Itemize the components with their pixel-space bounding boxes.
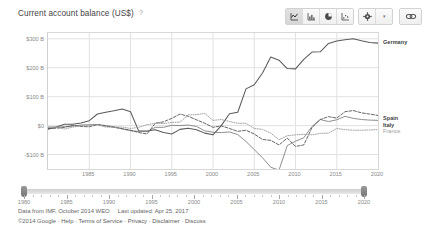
range-tick (271, 195, 272, 197)
series-label-france[interactable]: France (383, 128, 400, 134)
copyright-line: ©2014 Google - Help - Terms of Service -… (18, 218, 418, 224)
settings-toolbar: ▾ (358, 8, 393, 25)
range-tick (313, 195, 314, 197)
footer-link-terms-of-service[interactable]: Terms of Service (79, 218, 123, 224)
chart-plot-area[interactable] (47, 32, 379, 170)
range-tick (67, 195, 68, 199)
google-public-data-chart: Current account balance (US$) ? (0, 0, 430, 241)
chart-header: Current account balance (US$) ? (0, 0, 430, 28)
range-tick (364, 195, 365, 199)
page-title: Current account balance (US$) (18, 9, 134, 18)
range-tick-label: 1990 (103, 199, 115, 205)
y-axis-tick-label: $0 (38, 123, 44, 129)
range-tick (347, 195, 348, 197)
x-axis-tick-label: 1990 (123, 171, 135, 177)
chart-series-lines (48, 33, 378, 169)
range-tick (33, 195, 34, 197)
bar-chart-icon[interactable] (303, 9, 320, 24)
range-tick (305, 195, 306, 197)
chart-inline-legend: GermanySpainItalyFrance (381, 32, 430, 170)
range-tick (203, 195, 204, 197)
range-tick (262, 195, 263, 197)
range-tick (92, 195, 93, 197)
last-updated-text: Last updated: Apr 25, 2017 (118, 208, 189, 214)
y-axis: -$100 B$0$100 B$200 B$300 B (8, 32, 44, 170)
link-icon[interactable] (400, 9, 421, 24)
help-icon[interactable]: ? (139, 9, 143, 16)
range-tick (228, 195, 229, 197)
range-tick (58, 195, 59, 197)
range-tick (211, 195, 212, 197)
range-tick (135, 195, 136, 197)
chart-type-toolbar (285, 8, 354, 25)
footer-link-discuss[interactable]: Discuss (185, 218, 206, 224)
range-tick (143, 195, 144, 197)
range-slider-track[interactable] (24, 189, 364, 194)
range-tick (118, 195, 119, 197)
range-tick-label: 2020 (358, 199, 370, 205)
chevron-down-icon: ▾ (383, 14, 386, 19)
x-axis-tick-label: 2015 (330, 171, 342, 177)
x-axis-tick-label: 2005 (247, 171, 259, 177)
range-tick-label: 2010 (273, 199, 285, 205)
settings-dropdown-caret[interactable]: ▾ (376, 9, 392, 24)
series-label-germany[interactable]: Germany (383, 39, 407, 45)
range-tick (84, 195, 85, 197)
range-tick-label: 2015 (315, 199, 327, 205)
range-tick (169, 195, 170, 197)
range-tick (186, 195, 187, 197)
range-tick-label: 1980 (18, 199, 30, 205)
range-tick-label: 1985 (60, 199, 72, 205)
range-tick (279, 195, 280, 199)
range-tick (322, 195, 323, 199)
series-line-italy (48, 111, 378, 147)
range-tick-label: 2000 (188, 199, 200, 205)
x-axis-tick-label: 1995 (165, 171, 177, 177)
range-tick (339, 195, 340, 197)
range-tick (152, 195, 153, 199)
data-source-line: Data from IMF, October 2014 WEOLast upda… (18, 208, 418, 214)
y-axis-tick-label: -$100 B (24, 152, 44, 158)
range-tick (101, 195, 102, 197)
x-axis-tick-label: 2010 (288, 171, 300, 177)
pie-chart-icon[interactable] (320, 9, 337, 24)
time-range-slider[interactable]: 198019851990199520002005201020152020 (18, 186, 370, 206)
chart-footer: Data from IMF, October 2014 WEOLast upda… (18, 208, 418, 224)
range-tick (75, 195, 76, 197)
range-tick (220, 195, 221, 197)
scatter-chart-icon[interactable] (337, 9, 353, 24)
range-tick (24, 195, 25, 199)
range-tick (50, 195, 51, 197)
data-source-text: Data from IMF, October 2014 WEO (18, 208, 110, 214)
series-line-france (48, 113, 378, 139)
x-axis-tick-label: 2020 (371, 171, 383, 177)
range-tick (177, 195, 178, 197)
series-line-spain (48, 116, 378, 169)
copyright-text: ©2014 Google (18, 218, 56, 224)
footer-link-privacy[interactable]: Privacy (128, 218, 147, 224)
footer-link-help[interactable]: Help (61, 218, 73, 224)
x-axis-tick-label: 1985 (82, 171, 94, 177)
gear-icon[interactable] (359, 9, 376, 24)
y-axis-tick-label: $200 B (26, 65, 44, 71)
range-tick-label: 2005 (230, 199, 242, 205)
range-tick (330, 195, 331, 197)
range-tick (237, 195, 238, 199)
share-toolbar (399, 8, 422, 25)
range-tick (288, 195, 289, 197)
range-tick-label: 1995 (145, 199, 157, 205)
range-tick (296, 195, 297, 197)
y-axis-tick-label: $100 B (26, 94, 44, 100)
range-tick (194, 195, 195, 199)
range-tick (254, 195, 255, 197)
range-tick (41, 195, 42, 197)
line-chart-icon[interactable] (286, 9, 303, 24)
range-tick (109, 195, 110, 199)
range-tick (356, 195, 357, 197)
range-tick (160, 195, 161, 197)
x-axis-tick-label: 2000 (206, 171, 218, 177)
range-tick (245, 195, 246, 197)
x-axis: 19851990199520002005201020152020 (47, 171, 379, 181)
footer-link-disclaimer[interactable]: Disclaimer (152, 218, 180, 224)
y-axis-tick-label: $300 B (26, 36, 44, 42)
